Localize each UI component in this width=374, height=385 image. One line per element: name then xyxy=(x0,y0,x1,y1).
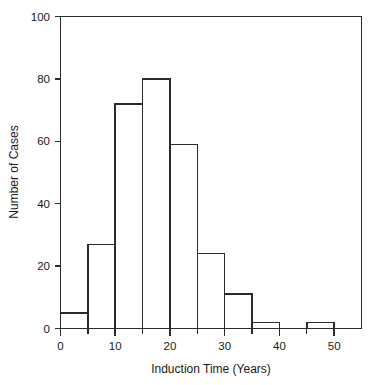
x-axis-ticks xyxy=(61,329,335,336)
histogram-bar xyxy=(307,322,334,328)
y-tick-label-80: 80 xyxy=(37,73,50,85)
y-tick-label-100: 100 xyxy=(31,11,50,23)
histogram-bar xyxy=(88,244,115,328)
y-axis-title: Number of Cases xyxy=(7,125,21,218)
histogram-bar xyxy=(170,144,197,328)
plot-frame xyxy=(61,17,362,329)
histogram-bar xyxy=(61,313,88,329)
x-axis-title: Induction Time (Years) xyxy=(151,362,271,376)
y-tick-label-20: 20 xyxy=(37,260,50,272)
y-tick-label-60: 60 xyxy=(37,135,50,147)
x-tick-label-40: 40 xyxy=(273,340,286,352)
histogram-bar xyxy=(115,104,142,329)
x-tick-label-20: 20 xyxy=(164,340,177,352)
histogram-bars xyxy=(61,79,335,329)
histogram-bar xyxy=(197,254,224,329)
chart-canvas: 0 20 40 60 80 100 0 10 20 30 40 xyxy=(0,0,374,385)
y-tick-label-40: 40 xyxy=(37,198,50,210)
x-tick-label-30: 30 xyxy=(218,340,231,352)
y-axis-ticks xyxy=(55,17,61,329)
histogram-bar xyxy=(225,294,252,328)
histogram-chart: 0 20 40 60 80 100 0 10 20 30 40 xyxy=(0,0,374,385)
x-tick-label-50: 50 xyxy=(328,340,341,352)
y-axis-tick-labels: 0 20 40 60 80 100 xyxy=(31,11,50,335)
y-tick-label-0: 0 xyxy=(44,323,50,335)
x-tick-label-10: 10 xyxy=(109,340,122,352)
histogram-bar xyxy=(252,322,279,328)
x-tick-label-0: 0 xyxy=(57,340,63,352)
x-axis-tick-labels: 0 10 20 30 40 50 xyxy=(57,340,340,352)
histogram-bar xyxy=(143,79,170,329)
